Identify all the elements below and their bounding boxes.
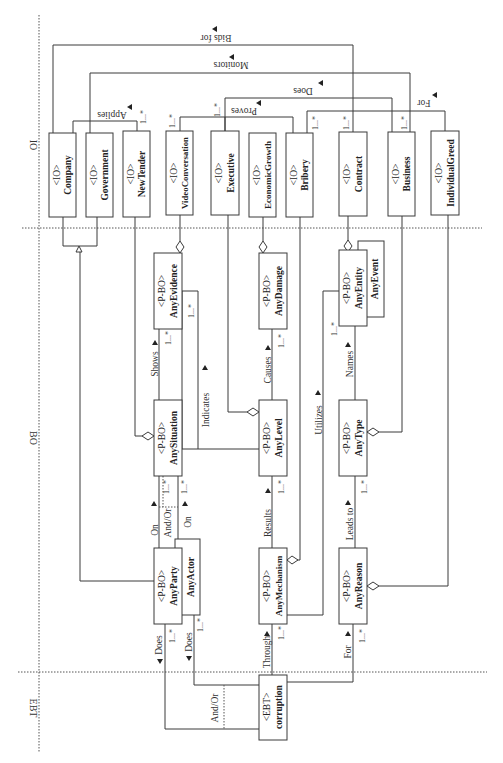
assoc-for-top-line (307, 111, 445, 133)
multiplicity: 1...* (168, 629, 177, 643)
aggregation-executive-anylevel (228, 215, 247, 412)
svg-text:Contract: Contract (354, 155, 364, 192)
svg-text:Company: Company (63, 155, 73, 195)
svg-text:<IO>: <IO> (89, 165, 99, 186)
assoc-label-indicates: Indicates (201, 393, 211, 428)
direction-arrow-icon (264, 631, 270, 636)
svg-text:<P-BO>: <P-BO> (157, 570, 167, 602)
direction-arrow-icon (186, 656, 192, 661)
svg-text:<IO>: <IO> (169, 163, 179, 184)
ebt-class-corruption[interactable]: <EBT> corruption (259, 675, 287, 740)
svg-text:AnyMechanism: AnyMechanism (274, 555, 284, 616)
aggregation-diamond-icon (247, 408, 259, 416)
bo-class-anymechanism[interactable]: <P-BO> AnyMechanism (259, 548, 287, 624)
multiplicity: 1...* (358, 629, 367, 643)
direction-arrow-icon (256, 100, 261, 106)
multiplicity: 1...* (180, 480, 189, 494)
direction-arrow-icon (152, 340, 158, 345)
assoc-label-on-right: On (183, 516, 193, 528)
svg-text:AnyLevel: AnyLevel (274, 418, 284, 457)
direction-arrow-icon (345, 342, 351, 347)
assoc-label-applies: Applies (97, 110, 127, 120)
svg-text:<IO>: <IO> (434, 163, 444, 184)
assoc-monitors-line (90, 73, 410, 133)
bo-class-anyreason[interactable]: <P-BO> AnyReason (339, 548, 367, 624)
svg-text:IndividualGreed: IndividualGreed (446, 139, 456, 207)
assoc-label-does-actor: Does (184, 632, 194, 652)
assoc-label-for-top: For (417, 98, 431, 108)
io-class-executive[interactable]: <IO> Executive (211, 131, 239, 215)
assoc-label-utilizes: Utilizes (314, 405, 324, 435)
bo-class-anyparty[interactable]: <P-BO> AnyParty (154, 548, 182, 624)
direction-arrow-icon (151, 501, 157, 506)
svg-text:<IO>: <IO> (126, 164, 136, 185)
aggregation-diamond-icon (142, 432, 154, 440)
svg-text:AnyEvent: AnyEvent (370, 258, 380, 299)
bo-class-anytype[interactable]: <P-BO> AnyType (339, 400, 367, 476)
direction-arrow-icon (432, 92, 437, 98)
assoc-label-on-left: On (150, 524, 160, 536)
io-class-newtender[interactable]: <IO> NewTender (123, 131, 150, 217)
assoc-label-for-bottom: For (343, 645, 353, 659)
assoc-label-and-or-top: And/Or (163, 508, 173, 538)
svg-text:VideoConversation: VideoConversation (180, 137, 190, 209)
io-class-business[interactable]: <IO> Business (388, 132, 415, 216)
direction-arrow-icon (265, 345, 271, 350)
svg-text:Bribery: Bribery (300, 159, 310, 191)
svg-text:AnyActor: AnyActor (186, 556, 196, 597)
bo-class-anydamage[interactable]: <P-BO> AnyDamage (259, 253, 287, 329)
svg-text:AnyType: AnyType (354, 420, 364, 457)
assoc-label-through: Through (262, 635, 272, 668)
io-class-contract[interactable]: <IO> Contract (339, 132, 367, 216)
io-class-videoconversation[interactable]: <IO> VideoConversation (166, 131, 193, 215)
svg-text:<IO>: <IO> (289, 165, 299, 186)
multiplicity: 1...* (277, 626, 286, 640)
assoc-label-names: Names (345, 351, 355, 378)
direction-arrow-icon (127, 104, 132, 110)
io-class-economicgrowth[interactable]: <IO> EconomicGrowth (249, 133, 276, 217)
assoc-label-causes: Causes (263, 356, 273, 383)
svg-text:<P-BO>: <P-BO> (157, 422, 167, 454)
aggregation-diamond-icon (367, 582, 379, 590)
svg-text:<IO>: <IO> (342, 164, 352, 185)
assoc-label-shows: Shows (150, 351, 160, 377)
direction-arrow-icon (345, 500, 351, 505)
multiplicity: 1...* (196, 618, 205, 632)
bo-class-anyentity[interactable]: <P-BO> AnyEntity (339, 250, 367, 326)
svg-text:<P-BO>: <P-BO> (157, 275, 167, 307)
io-class-individualgreed[interactable]: <IO> IndividualGreed (431, 131, 459, 215)
io-class-bribery[interactable]: <IO> Bribery (286, 133, 313, 217)
bo-class-anylevel[interactable]: <P-BO> AnyLevel (259, 400, 287, 476)
multiplicity: 1...* (342, 116, 351, 130)
svg-text:corruption: corruption (274, 684, 284, 729)
io-class-government[interactable]: <IO> Government (86, 133, 113, 217)
svg-text:AnySituation: AnySituation (169, 410, 179, 465)
generalization-triangle-icon (76, 246, 82, 252)
direction-arrow-icon (345, 631, 351, 636)
assoc-label-does-party: Does (154, 635, 164, 655)
assoc-label-proves: Proves (231, 106, 257, 116)
svg-text:<P-BO>: <P-BO> (262, 570, 272, 602)
svg-text:<IO>: <IO> (252, 165, 262, 186)
io-class-company[interactable]: <IO> Company (49, 133, 76, 217)
direction-arrow-icon (202, 365, 208, 370)
svg-text:AnyEvidence: AnyEvidence (169, 264, 179, 318)
multiplicity: 1...* (162, 480, 171, 494)
svg-text:<P-BO>: <P-BO> (262, 422, 272, 454)
aggregation-diamond-icon (259, 241, 267, 253)
aggregation-greed-anyreason (379, 215, 448, 586)
bo-class-anyevidence[interactable]: <P-BO> AnyEvidence (154, 253, 182, 329)
multiplicity: 1...* (330, 322, 339, 336)
aggregation-newtender-anysituation (135, 217, 142, 436)
svg-text:<IO>: <IO> (52, 165, 62, 186)
svg-text:<P-BO>: <P-BO> (262, 275, 272, 307)
bo-class-anysituation[interactable]: <P-BO> AnySituation (154, 400, 182, 476)
svg-text:AnyDamage: AnyDamage (274, 266, 284, 316)
svg-text:EconomicGrowth: EconomicGrowth (263, 141, 273, 209)
lane-label-io: IO (28, 140, 39, 151)
multiplicity: 1...* (311, 116, 320, 130)
assoc-label-leads-to: Leads to (345, 508, 355, 541)
lane-label-bo: BO (28, 431, 39, 445)
svg-text:<IO>: <IO> (214, 163, 224, 184)
svg-text:AnyEntity: AnyEntity (354, 267, 364, 309)
